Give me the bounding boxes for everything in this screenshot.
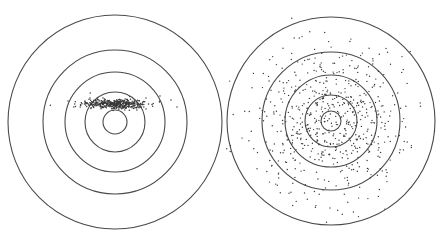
shot-dot [366,109,367,110]
shot-dot [341,116,342,117]
shot-dot [129,110,131,112]
shot-dot [316,128,317,129]
shot-dot [366,143,367,144]
shot-dot [288,95,289,96]
shot-dot [291,143,292,144]
shot-dot [384,141,385,142]
shot-dot [338,95,339,96]
shot-dot [340,171,341,172]
shot-dot [411,145,412,146]
shot-dot [330,46,331,47]
target-ring-1 [227,17,435,225]
shot-dot [372,58,373,59]
shot-dot [352,164,353,165]
shot-dot [346,154,347,155]
shot-dot [143,104,145,106]
shot-dot [379,54,380,55]
shot-dot [118,106,120,108]
shot-dot [295,89,296,90]
shot-dot [148,103,150,105]
shot-dot [315,207,316,208]
shot-dot [337,102,338,103]
shot-dot [137,100,139,102]
shot-dot [353,107,354,108]
shot-dot [355,125,356,126]
shot-dot [226,148,227,149]
shot-dot [159,100,161,102]
shot-dot [347,180,348,181]
shot-dot [382,105,383,106]
shot-dot [310,156,311,157]
shot-dot [176,106,178,108]
shot-dot [152,103,154,105]
shot-dot [280,192,281,193]
shot-dot [403,69,404,70]
shot-scatter [226,18,435,223]
shot-dot [268,76,269,77]
shot-dot [354,68,355,69]
shot-dot [292,139,293,140]
shot-dot [128,106,130,108]
shot-dot [336,72,337,73]
shot-dot [282,123,283,124]
shot-dot [129,96,131,98]
shot-dot [108,102,110,104]
shot-dot [381,105,382,106]
shot-dot [335,122,336,123]
shot-dot [334,63,335,64]
shot-dot [344,88,345,89]
shot-dot [241,137,242,138]
shot-dot [273,111,274,112]
shot-dot [357,151,358,152]
shot-dot [328,130,329,131]
shot-dot [325,115,326,116]
shot-dot [397,92,398,93]
shot-dot [377,110,378,111]
shot-dot [74,103,76,105]
shot-dot [330,113,331,114]
shot-dot [111,106,113,108]
shot-dot [95,105,97,107]
shot-dot [324,32,325,33]
shot-dot [89,92,91,94]
shot-dot [159,95,161,97]
shot-dot [96,98,98,100]
shot-dot [292,129,293,130]
shot-dot [357,171,358,172]
shot-dot [312,148,313,149]
shot-dot [111,108,113,110]
target-ring-5 [103,110,127,134]
shot-dot [355,84,356,85]
shot-dot [348,168,349,169]
shot-dot [269,160,270,161]
shot-dot [351,102,352,103]
shot-dot [86,106,88,108]
shot-dot [353,169,354,170]
shot-dot [118,101,120,103]
target-rings [227,17,435,225]
shot-dot [285,161,286,162]
shot-dot [264,111,265,112]
shot-dot [372,60,373,61]
shot-dot [328,105,329,106]
shot-dot [359,95,360,96]
shot-dot [327,145,328,146]
shot-dot [348,124,349,125]
shot-dot [280,152,281,153]
shot-dot [343,72,344,73]
shot-dot [360,55,361,56]
shot-dot [307,199,308,200]
shot-dot [348,97,349,98]
shot-dot [314,122,315,123]
shot-dot [291,18,292,19]
shot-dot [344,103,345,104]
shot-dot [268,80,269,81]
shot-dot [359,166,360,167]
shot-dot [133,105,135,107]
shot-dot [294,177,295,178]
shot-dot [87,103,89,105]
shot-dot [403,118,404,119]
shot-dot [332,135,333,136]
shot-dot [390,110,391,111]
shot-dot [307,113,308,114]
